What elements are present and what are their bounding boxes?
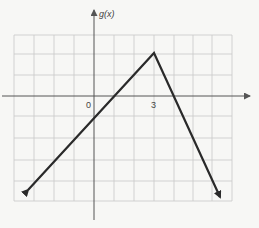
grid <box>14 35 232 201</box>
x-tick-3: 3 <box>151 100 156 110</box>
y-axis-label: g(x) <box>99 9 115 19</box>
origin-label: 0 <box>86 100 91 110</box>
graph <box>0 0 259 228</box>
